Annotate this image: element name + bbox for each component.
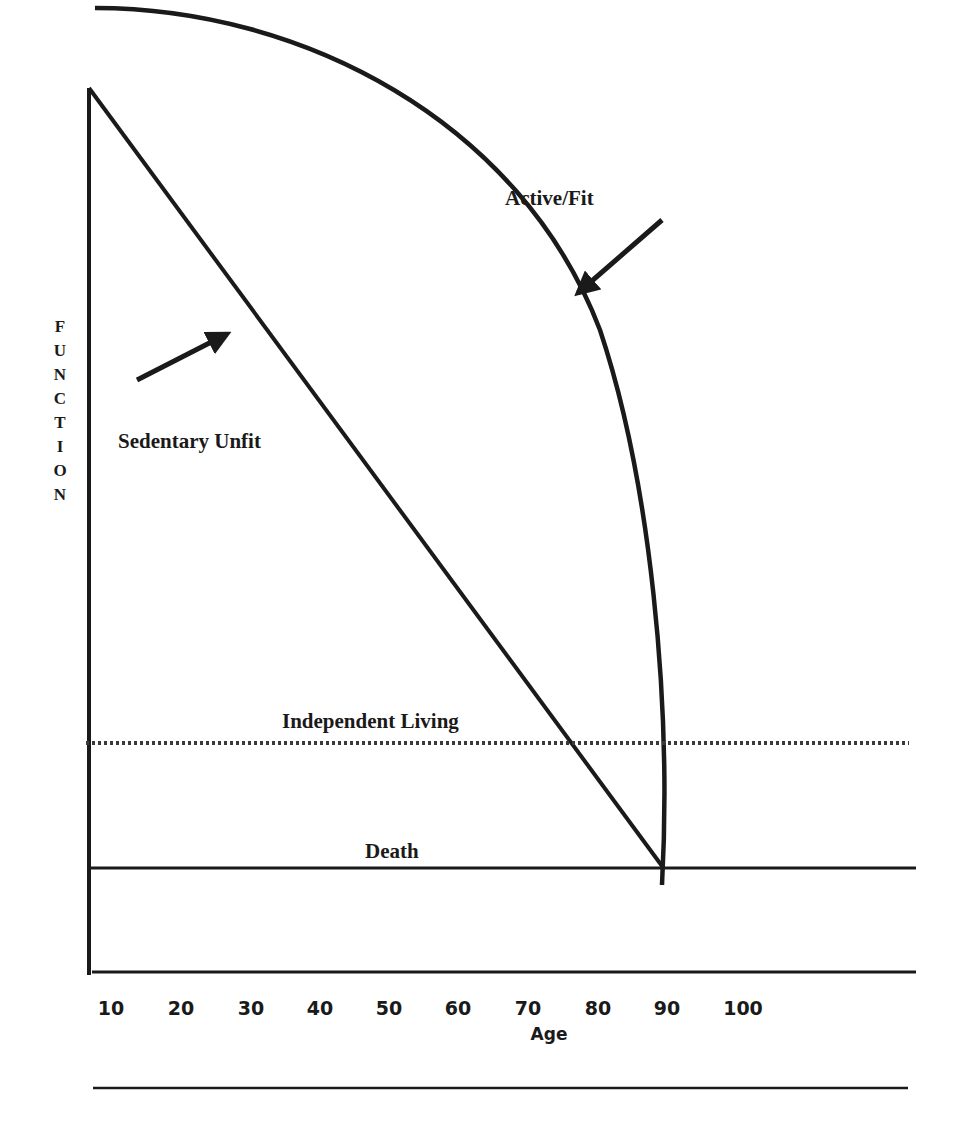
- function-vs-age-diagram: F U N C T I O N Active/Fit Sedentary Unf…: [0, 0, 962, 1144]
- x-tick: 20: [168, 997, 194, 1019]
- x-tick: 60: [445, 997, 471, 1019]
- x-tick: 80: [585, 997, 611, 1019]
- y-letter: C: [54, 389, 66, 408]
- x-tick: 70: [515, 997, 541, 1019]
- independent-living-label: Independent Living: [282, 709, 459, 733]
- y-letter: I: [57, 437, 64, 456]
- x-axis-label: Age: [531, 1024, 568, 1044]
- y-letter: O: [53, 461, 66, 480]
- y-axis-label: F U N C T I O N: [53, 317, 66, 504]
- x-tick: 10: [98, 997, 124, 1019]
- x-tick: 90: [654, 997, 680, 1019]
- x-tick: 30: [238, 997, 264, 1019]
- x-tick: 40: [307, 997, 333, 1019]
- x-tick: 100: [723, 997, 763, 1019]
- active-fit-label: Active/Fit: [505, 186, 594, 210]
- y-letter: T: [54, 413, 66, 432]
- y-letter: N: [54, 485, 67, 504]
- x-axis-ticks: 10 20 30 40 50 60 70 80 90 100: [98, 997, 763, 1019]
- active-fit-arrow-icon: [578, 220, 662, 293]
- sedentary-unfit-arrow-icon: [137, 334, 227, 380]
- x-tick: 50: [376, 997, 402, 1019]
- y-letter: U: [54, 341, 66, 360]
- y-letter: N: [54, 365, 67, 384]
- sedentary-unfit-label: Sedentary Unfit: [118, 429, 261, 453]
- death-label: Death: [365, 839, 419, 863]
- y-letter: F: [55, 317, 65, 336]
